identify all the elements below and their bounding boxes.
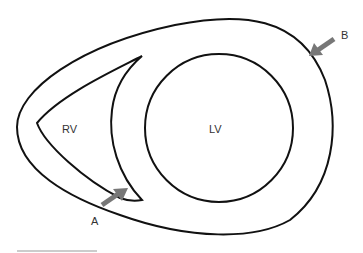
label-a: A [91,215,99,227]
rv-cavity-outline [37,56,142,201]
arrow-b-icon [309,39,334,56]
heart-diagram: RV LV A B [0,0,363,253]
label-rv: RV [62,123,78,135]
label-lv: LV [209,123,222,135]
label-b: B [341,29,348,41]
